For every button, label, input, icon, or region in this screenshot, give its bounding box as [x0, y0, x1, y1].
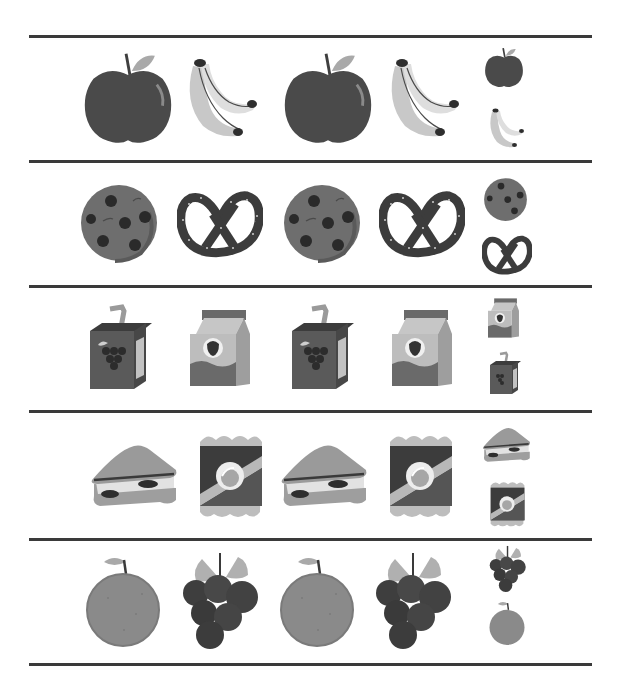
answer-choice-sandwich[interactable]	[482, 427, 532, 463]
pretzel-icon	[379, 190, 465, 258]
answer-choice-banana[interactable]	[486, 105, 528, 150]
banana-icon	[183, 52, 263, 142]
juice-box-icon	[290, 303, 354, 391]
orange-icon	[280, 554, 354, 648]
divider-line-2	[29, 160, 592, 163]
milk-carton-icon	[392, 308, 454, 388]
pretzel-icon	[177, 190, 263, 258]
answer-choice-apple[interactable]	[483, 45, 525, 90]
divider-line-5	[29, 538, 592, 541]
apple-icon	[280, 50, 376, 146]
divider-line-3	[29, 285, 592, 288]
milk-carton-icon	[190, 308, 252, 388]
juice-box-icon	[88, 303, 152, 391]
sandwich-icon	[90, 444, 180, 508]
grapes-icon	[182, 551, 260, 651]
sandwich-icon	[280, 444, 370, 508]
cookie-icon	[79, 183, 159, 263]
banana-icon	[385, 52, 465, 142]
apple-icon	[80, 50, 176, 146]
grapes-icon	[375, 551, 453, 651]
chips-bag-icon	[386, 432, 454, 520]
orange-icon	[86, 554, 160, 648]
answer-choice-cookie[interactable]	[483, 177, 528, 222]
divider-line-4	[29, 410, 592, 413]
divider-line-6	[29, 663, 592, 666]
chips-bag-icon	[196, 432, 264, 520]
answer-choice-pretzel[interactable]	[482, 235, 532, 275]
answer-choice-grapes[interactable]	[489, 545, 527, 593]
answer-choice-chips-bag[interactable]	[488, 480, 526, 528]
cookie-icon	[282, 183, 362, 263]
answer-choice-juice-box[interactable]	[489, 350, 521, 396]
answer-choice-milk-carton[interactable]	[488, 297, 520, 339]
answer-choice-orange[interactable]	[489, 600, 525, 646]
divider-line-1	[29, 35, 592, 38]
